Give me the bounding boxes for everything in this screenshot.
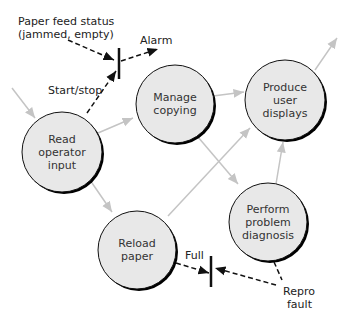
control-paper-feed-status [68, 40, 114, 60]
label-start-stop: Start/stop [48, 84, 102, 97]
control-alarm [121, 49, 158, 61]
label-paper-feed-status: Paper feed status [18, 15, 114, 28]
control-full [176, 263, 209, 273]
label-fault: fault [287, 298, 312, 311]
node-label-perform: Perform problem diagnosis [242, 203, 294, 242]
flow-read-to-manage [98, 118, 133, 133]
node-label-produce: Produce user displays [263, 81, 308, 120]
flow-manage-to-produce [213, 92, 244, 96]
control-repro-fault [215, 268, 276, 285]
node-label-reload: Reload paper [118, 237, 155, 263]
label-jammed-empty: (jammed, empty) [18, 28, 114, 41]
flow-read-to-reload [92, 183, 112, 212]
flow-into-read [12, 88, 35, 118]
flow-produce-out [315, 38, 337, 70]
node-label-read: Read operator input [38, 133, 85, 172]
flow-perform-to-produce [276, 142, 283, 184]
control-repro-from-perform [274, 262, 282, 280]
node-label-manage: Manage copying [153, 91, 197, 117]
label-full: Full [185, 249, 204, 262]
label-repro: Repro [283, 285, 315, 298]
label-alarm: Alarm [140, 34, 172, 47]
